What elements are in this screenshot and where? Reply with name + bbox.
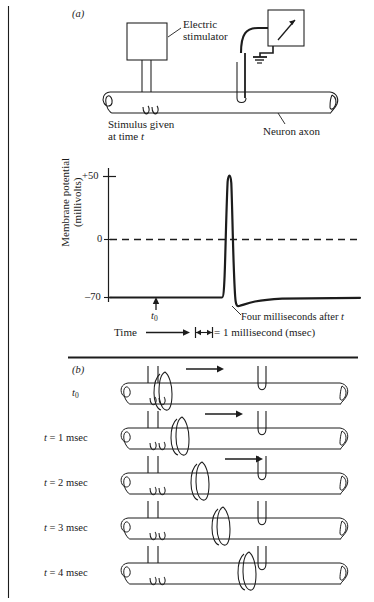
plot-y-axis-label: Membrane potential (millivolts) bbox=[59, 127, 84, 277]
propagation-row bbox=[121, 546, 348, 590]
neuron-axon-label: Neuron axon bbox=[263, 125, 320, 137]
row-label-t3: t = 3 msec bbox=[44, 522, 88, 536]
voltmeter-needle-tip bbox=[289, 20, 295, 25]
axon-leader-line bbox=[278, 113, 285, 124]
earth-ground-icon bbox=[253, 46, 273, 63]
stimulus-time-variable: t bbox=[141, 130, 144, 142]
recording-electrode bbox=[237, 53, 246, 103]
row-label-rest: = 2 msec bbox=[47, 477, 88, 488]
time-axis-arrow bbox=[146, 329, 190, 335]
stimulator-label-line2: stimulator bbox=[183, 30, 228, 42]
four-milliseconds-annotation: Four milliseconds after t bbox=[241, 311, 344, 323]
ytick-label-top: +50 bbox=[82, 170, 98, 182]
t0-label: t0 bbox=[151, 310, 158, 324]
panel-a-label: (a) bbox=[72, 8, 84, 20]
voltmeter bbox=[268, 10, 304, 46]
propagation-row bbox=[121, 501, 348, 545]
ytick-label-bottom: –70 bbox=[85, 291, 101, 303]
row-label-rest: = 4 msec bbox=[47, 567, 88, 578]
stimulator-label-line1: Electric bbox=[183, 18, 217, 30]
row-label-t2: t = 2 msec bbox=[44, 477, 88, 491]
electric-stimulator-box bbox=[127, 23, 167, 92]
row-label-t0: t0 bbox=[72, 387, 79, 401]
row-label-t4: t = 4 msec bbox=[44, 567, 88, 581]
ylabel-line2: (millivolts) bbox=[71, 178, 83, 228]
four-ms-variable: t bbox=[341, 311, 344, 322]
interval-bar-icon bbox=[196, 327, 213, 338]
axon-tube bbox=[103, 92, 338, 113]
figure-artwork bbox=[0, 0, 374, 602]
propagation-row bbox=[121, 411, 348, 455]
stimulus-label-line2: at time bbox=[108, 130, 141, 142]
row-label-t1: t = 1 msec bbox=[44, 432, 88, 446]
t0-stimulus-arrow bbox=[153, 297, 159, 310]
figure-action-potential: (a) Electric stimulator Stimulus given a… bbox=[0, 0, 374, 602]
propagation-row bbox=[121, 456, 348, 500]
row-label-rest: = 3 msec bbox=[47, 522, 88, 533]
row-label-rest: = 1 msec bbox=[47, 432, 88, 443]
membrane-potential-trace bbox=[110, 176, 360, 307]
propagation-arrow bbox=[225, 456, 263, 463]
stimulator-leader-line bbox=[168, 28, 181, 37]
t0-label-sub: 0 bbox=[154, 314, 158, 323]
propagation-arrow bbox=[205, 411, 243, 418]
electrode-wire bbox=[241, 28, 268, 53]
panel-b-label: (b) bbox=[72, 364, 84, 376]
propagation-arrow bbox=[186, 366, 224, 373]
electric-stimulator-label: Electric stimulator bbox=[183, 18, 228, 43]
stimulus-label-line1: Stimulus given bbox=[108, 118, 174, 130]
time-scale-label: = 1 millisecond (msec) bbox=[214, 326, 315, 338]
time-axis-label: Time bbox=[114, 326, 137, 338]
row-label-sub: 0 bbox=[75, 391, 79, 400]
propagation-rows bbox=[121, 366, 348, 590]
four-ms-text: Four milliseconds after bbox=[241, 311, 341, 322]
ytick-label-mid: 0 bbox=[97, 233, 102, 245]
ylabel-line1: Membrane potential bbox=[59, 158, 71, 247]
four-ms-leader-line bbox=[232, 306, 241, 315]
propagation-row bbox=[121, 366, 348, 410]
stimulus-given-label: Stimulus given at time t bbox=[108, 118, 174, 143]
